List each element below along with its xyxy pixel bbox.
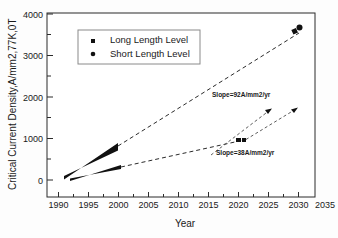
y-tick-label-3000: 3000 bbox=[23, 51, 43, 61]
chart-legend: Long Length Level Short Length Level bbox=[78, 30, 200, 64]
data-point-2022-square bbox=[242, 138, 246, 142]
annotation-slope-92: Slope=92A/mm2/yr bbox=[212, 91, 271, 99]
x-tick-label-2005: 2005 bbox=[138, 200, 158, 210]
legend-label-short-length: Short Length Level bbox=[110, 48, 190, 59]
x-tick-label-2015: 2015 bbox=[198, 200, 218, 210]
data-point-2030-circle bbox=[297, 25, 303, 31]
y-axis-title: Critical Current Density,A/mm2,77K,0T bbox=[7, 18, 18, 190]
y-tick-label-2000: 2000 bbox=[23, 93, 43, 103]
x-tick-label-2020: 2020 bbox=[228, 200, 248, 210]
x-tick-label-2025: 2025 bbox=[258, 200, 278, 210]
data-point-2021-square bbox=[236, 138, 241, 142]
legend-marker-circle-icon bbox=[91, 52, 96, 57]
x-tick-label-2000: 2000 bbox=[108, 200, 128, 210]
chart-figure: 4000 3000 2000 1000 0 Critical Current D… bbox=[0, 0, 338, 238]
x-tick-label-2030: 2030 bbox=[288, 200, 308, 210]
x-axis-title: Year bbox=[175, 218, 196, 229]
x-tick-label-1990: 1990 bbox=[48, 200, 68, 210]
legend-marker-square-icon bbox=[91, 39, 95, 43]
legend-label-long-length: Long Length Level bbox=[110, 34, 188, 45]
y-tick-label-4000: 4000 bbox=[23, 10, 43, 20]
annotation-slope-38: Slope=38A/mm2/yr bbox=[216, 149, 275, 157]
x-tick-label-2010: 2010 bbox=[168, 200, 188, 210]
y-tick-label-1000: 1000 bbox=[23, 134, 43, 144]
chart-canvas: 4000 3000 2000 1000 0 Critical Current D… bbox=[0, 0, 338, 238]
x-tick-label-1995: 1995 bbox=[78, 200, 98, 210]
x-tick-label-2035: 2035 bbox=[315, 200, 335, 210]
y-tick-label-0: 0 bbox=[38, 176, 43, 186]
